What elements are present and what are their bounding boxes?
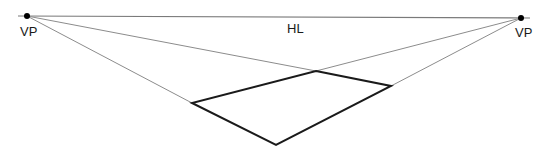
vanishing-point-right-dot [518,15,524,21]
perspective-square [192,71,391,145]
vanishing-point-right-label: VP [515,26,532,39]
construction-line-left-vp-to-far [27,16,316,71]
vanishing-point-left-label: VP [20,25,37,38]
construction-line-right-vp-to-right [391,18,521,86]
construction-line-left-vp-to-left [27,16,192,103]
horizon-line [18,16,530,18]
vanishing-point-left-dot [24,13,30,19]
perspective-diagram [0,0,548,149]
construction-line-right-vp-to-far [316,18,521,71]
horizon-line-label: HL [287,22,304,35]
